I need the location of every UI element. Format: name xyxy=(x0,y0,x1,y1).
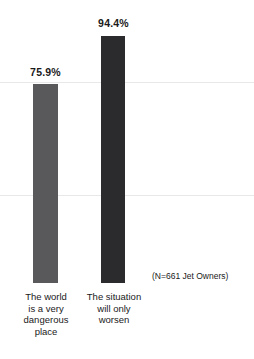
category-label-bar-0: The world is a very dangerous place xyxy=(4,291,88,337)
sample-size-annotation: (N=661 Jet Owners) xyxy=(152,271,228,281)
value-label-bar-1: 94.4% xyxy=(81,17,146,29)
bar-the-world-is-a-very-dangerous-place[interactable] xyxy=(33,84,58,283)
bar-chart: 75.9% 94.4% The world is a very dangerou… xyxy=(0,0,254,359)
bar-the-situation-will-only-worsen[interactable] xyxy=(101,36,125,283)
value-label-bar-0: 75.9% xyxy=(13,66,78,78)
category-label-bar-1: The situation will only worsen xyxy=(77,291,151,326)
